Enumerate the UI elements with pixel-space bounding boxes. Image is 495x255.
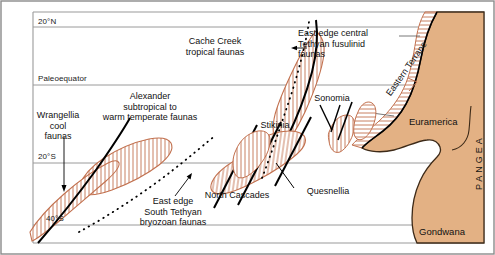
terrane-label-cache-creek: Cache Creek tropical faunas [163,36,267,57]
central-tethyan-line-1: East edge central [298,28,402,39]
faunal-label-east-edge-south-tethyan: East edge South Tethyan bryozoan faunas [109,196,237,228]
central-tethyan-line-2: Tethyan fusulinid [298,39,402,50]
cache-creek-line-1: Cache Creek [163,36,267,47]
alexander-line-2: subtropical to [87,102,213,113]
south-tethyan-leader-arrow [187,173,192,180]
wrangellia-leader-arrow [62,185,67,192]
sonomia-leader-1 [320,105,332,130]
continent-label-euramerica: Euramerica [409,116,458,127]
latitude-label-20n: 20°N [38,17,56,26]
faunal-label-east-edge-central-tethyan: East edge central Tethyan fusulinid faun… [298,28,402,60]
cache-creek-line-2: tropical faunas [163,47,267,58]
paleogeographic-map-figure: 20°N Paleoequator 20°S 40°S Wrangellia c… [0,0,495,255]
central-tethyan-line-3: faunas [298,49,402,60]
south-tethyan-line-1: East edge [109,196,237,207]
south-tethyan-line-3: bryozoan faunas [109,217,237,228]
continent-label-pangea: PANGEA [474,135,484,190]
terrane-label-stikinia: Stikinia [249,120,301,131]
alexander-line-1: Alexander [87,91,213,102]
continent-label-gondwana: Gondwana [419,226,465,237]
sonomia-shape [320,102,355,152]
latitude-label-equator: Paleoequator [38,74,87,83]
south-tethyan-line-2: South Tethyan [109,207,237,218]
south-tethyan-leader [175,176,190,196]
terrane-label-alexander: Alexander subtropical to warm temperate … [87,91,213,123]
alexander-line-3: warm temperate faunas [87,112,213,123]
central-tethyan-leader-arrow [291,46,297,50]
terrane-label-sonomia: Sonomia [305,93,359,104]
latitude-label-40s: 40°S [46,214,64,223]
wrangellia-line-3: faunas [14,131,102,142]
latitude-label-20s: 20°S [38,152,56,161]
terrane-label-quesnellia: Quesnellia [296,186,360,197]
